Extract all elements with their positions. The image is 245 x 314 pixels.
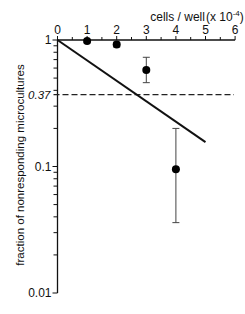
x-tick-label: 1 — [84, 23, 91, 37]
x-tick-label: 6 — [232, 23, 239, 37]
data-point — [113, 41, 121, 49]
x-tick-label: 5 — [202, 23, 209, 37]
y-tick-label: 0.01 — [28, 286, 52, 300]
data-point — [172, 165, 180, 173]
x-tick-label: 4 — [173, 23, 180, 37]
data-points — [83, 37, 180, 223]
y-tick-label: 0.1 — [35, 160, 52, 174]
data-point — [83, 37, 91, 45]
y-axis-label: fraction of nonresponding microcultures — [14, 64, 26, 266]
fit-line — [58, 40, 206, 142]
reference-label: 0.37 — [28, 89, 51, 101]
axes: 012345610.10.01 — [28, 23, 239, 300]
regression-line — [58, 40, 206, 142]
x-tick-label: 2 — [113, 23, 120, 37]
limiting-dilution-chart: 012345610.10.01 0.37 cells / well(x 10-4… — [0, 0, 245, 314]
y-tick-label: 1 — [45, 33, 52, 47]
x-tick-label: 0 — [54, 23, 61, 37]
x-axis-label: cells / well(x 10-4) — [150, 9, 244, 24]
data-point — [142, 66, 150, 74]
x-tick-label: 3 — [143, 23, 150, 37]
